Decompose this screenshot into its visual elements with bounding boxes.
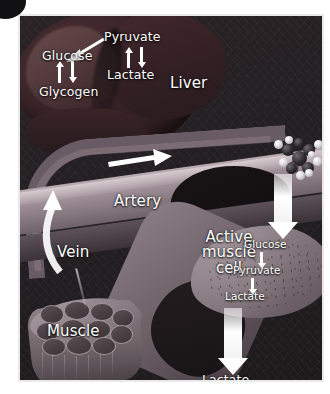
lactate-to-pyruvate-up-head (125, 47, 133, 53)
cell-glucose-label: Glucose (244, 238, 287, 250)
lactate-release-arrow-shaft (224, 308, 242, 360)
cori-cycle-figure: Glucose Glycogen Pyruvate Lactate Liver … (0, 0, 330, 394)
liver-pyruvate-label: Pyruvate (104, 29, 160, 44)
illustration-panel: Glucose Glycogen Pyruvate Lactate Liver … (18, 14, 324, 382)
cell-lactate-label: Lactate (225, 290, 265, 302)
molecule-atom-oxygen (279, 158, 288, 167)
venous-return-arrow (30, 188, 82, 274)
liver-glucose-label: Glucose (42, 48, 93, 63)
molecule-atom-carbon (286, 163, 297, 174)
molecule-atom-oxygen (308, 151, 315, 158)
cell-pyruvate-label: Pyruvate (233, 264, 281, 276)
liver-label: Liver (170, 74, 207, 92)
molecule-atom-oxygen (274, 140, 283, 149)
muscle-striation (88, 355, 89, 382)
artery-label: Artery (114, 192, 161, 210)
glucose-delivery-arrow-head (268, 222, 298, 239)
molecule-atom-carbon (294, 138, 304, 148)
lactate-output-label: Lactate (202, 372, 249, 382)
arterial-flow-arrow (106, 142, 176, 172)
glycogen-to-glucose-down-shaft (71, 61, 74, 78)
molecule-atom-oxygen (296, 171, 305, 180)
muscle-fascicle (42, 338, 66, 356)
muscle-striation (76, 356, 77, 382)
glucose-delivery-arrow-shaft (274, 174, 292, 224)
molecule-atom-carbon (282, 144, 294, 156)
muscle-fascicle (90, 303, 114, 321)
lactate-to-pyruvate-up-shaft (127, 52, 130, 68)
muscle-striation (52, 354, 53, 382)
muscle-striation (42, 352, 43, 382)
molecule-atom-oxygen (313, 157, 322, 166)
muscle-striation (100, 353, 101, 381)
glucose-to-glycogen-up-shaft (58, 66, 61, 83)
muscle-striation (64, 355, 65, 382)
muscle-label: Muscle (47, 322, 100, 340)
molecule-atom-oxygen (314, 140, 323, 149)
molecule-atom-oxygen (285, 136, 293, 144)
muscle-striation (112, 351, 113, 378)
glycogen-to-glucose-down-head (69, 77, 77, 83)
liver-lactate-label: Lactate (107, 67, 154, 82)
liver-glycogen-label: Glycogen (39, 84, 98, 99)
pyruvate-to-lactate-down-shaft (140, 47, 143, 63)
vein-label: Vein (57, 243, 89, 261)
molecule-atom-oxygen (305, 169, 313, 177)
